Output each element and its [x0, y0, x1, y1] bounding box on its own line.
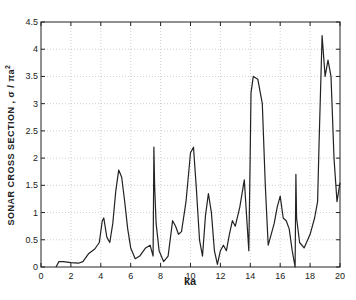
x-axis-label: ka: [184, 275, 197, 287]
y-axis-ticks: 00.511.522.533.544.5: [25, 17, 340, 272]
y-tick-label: 1.5: [25, 180, 38, 190]
y-tick-label: 3.5: [25, 71, 38, 81]
x-tick-label: 20: [335, 271, 345, 281]
chart: 02468101214161820 00.511.522.533.544.5 k…: [0, 0, 356, 300]
x-tick-label: 14: [245, 271, 255, 281]
y-tick-label: 1: [33, 208, 38, 218]
y-tick-label: 0: [33, 262, 38, 272]
y-tick-label: 2.5: [25, 126, 38, 136]
x-tick-label: 8: [158, 271, 163, 281]
y-tick-label: 4: [33, 44, 38, 54]
x-tick-label: 2: [68, 271, 73, 281]
y-tick-label: 4.5: [25, 17, 38, 27]
x-tick-label: 18: [305, 271, 315, 281]
x-tick-label: 0: [38, 271, 43, 281]
y-tick-label: 2: [33, 153, 38, 163]
y-tick-label: 3: [33, 99, 38, 109]
x-tick-label: 16: [275, 271, 285, 281]
data-line: [56, 36, 340, 267]
y-axis-label: SONAR CROSS SECTION , σ / πa2: [4, 65, 16, 226]
x-tick-label: 6: [128, 271, 133, 281]
x-tick-label: 4: [98, 271, 103, 281]
y-tick-label: 0.5: [25, 235, 38, 245]
x-tick-label: 12: [215, 271, 225, 281]
